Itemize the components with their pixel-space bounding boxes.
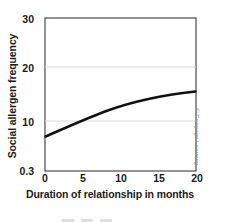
- copyright-credit: © Cengage Learning: [194, 108, 200, 165]
- caption-glyph: [81, 219, 93, 222]
- chart-figure: Social allergen frequency 30 20 10 0.3 0…: [0, 0, 231, 222]
- caption-glyph: [62, 219, 74, 222]
- caption-glyph: [100, 219, 112, 222]
- figure-caption-stub: [62, 212, 124, 220]
